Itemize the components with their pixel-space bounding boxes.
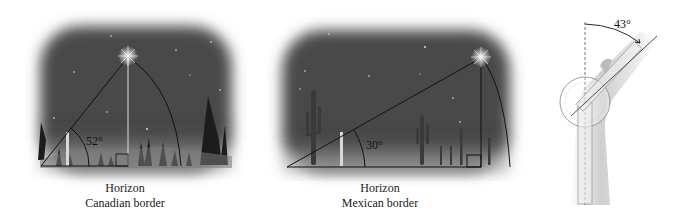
caption-mexican: Horizon Mexican border (320, 181, 440, 211)
panel-goniometer (560, 22, 658, 205)
angle-label-30: 30° (366, 138, 383, 153)
arm-axis-line (571, 36, 657, 116)
angle-label-52: 52° (86, 134, 103, 149)
angle-label-43: 43° (614, 17, 631, 32)
observer-figure (66, 132, 69, 166)
goniometer-fixed-arm (578, 102, 592, 204)
caption-line-horizon: Horizon (320, 181, 440, 196)
north-star (118, 46, 138, 66)
diagram-canvas (0, 0, 694, 211)
panel-mexican-border (282, 30, 510, 172)
caption-line-border: Mexican border (320, 196, 440, 211)
caption-canadian: Horizon Canadian border (75, 181, 175, 211)
panel-canadian-border (38, 26, 232, 172)
caption-line-horizon: Horizon (75, 181, 175, 196)
angle-arc-43 (585, 24, 640, 43)
north-star (471, 47, 491, 67)
caption-line-border: Canadian border (75, 196, 175, 211)
